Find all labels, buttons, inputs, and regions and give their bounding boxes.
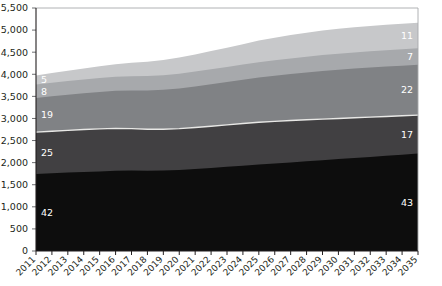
left-share-label-band-3: 19 [41, 109, 53, 120]
left-share-label-band-1: 42 [41, 207, 53, 218]
chart-canvas: 05001,0001,5002,0002,5003,0003,5004,0004… [0, 0, 442, 286]
y-tick-label: 1,500 [1, 179, 28, 190]
right-share-label-band-3: 22 [401, 84, 413, 95]
y-tick-label: 4,500 [1, 47, 28, 58]
y-tick-label: 3,000 [1, 113, 28, 124]
y-tick-label: 2,500 [1, 135, 28, 146]
right-share-label-band-1: 43 [401, 197, 413, 208]
left-share-label-band-2: 25 [41, 147, 53, 158]
y-tick-label: 0 [22, 245, 28, 256]
y-tick-label: 5,500 [1, 2, 28, 13]
right-share-label-band-2: 17 [401, 129, 413, 140]
right-share-label-band-4: 7 [407, 51, 413, 62]
y-tick-label: 4,000 [1, 69, 28, 80]
y-tick-label: 1,000 [1, 201, 28, 212]
left-share-label-band-4: 8 [41, 86, 47, 97]
y-tick-label: 5,000 [1, 24, 28, 35]
y-tick-label: 500 [10, 223, 28, 234]
right-share-label-band-5: 11 [401, 30, 413, 41]
left-share-label-band-5: 5 [41, 74, 47, 85]
y-tick-label: 2,000 [1, 157, 28, 168]
y-tick-label: 3,500 [1, 91, 28, 102]
stacked-area-chart: 05001,0001,5002,0002,5003,0003,5004,0004… [0, 0, 442, 286]
